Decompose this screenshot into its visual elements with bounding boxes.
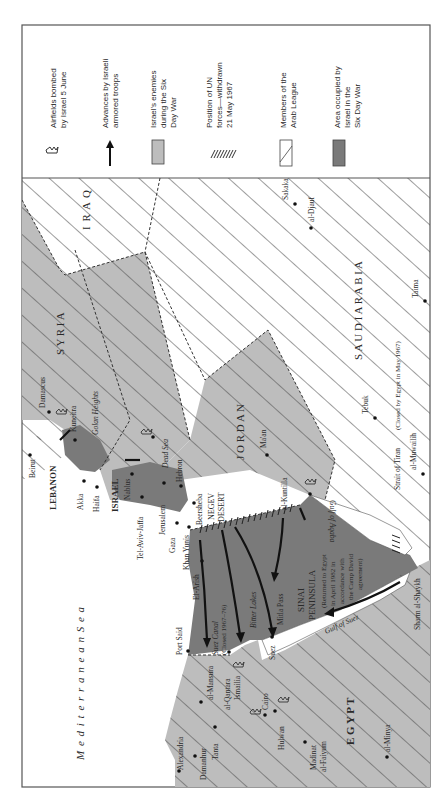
label-sinai-note: (Returned to Egypt	[320, 554, 328, 608]
label-lebanon: LEBANON	[48, 465, 58, 510]
legend-text: Six Day War	[353, 84, 362, 128]
label-sinai-note: agreement)	[356, 558, 364, 590]
legend-text: Israel in the	[343, 86, 352, 128]
legend-text: Position of UN	[205, 77, 214, 128]
city-gaza: Gaza	[168, 537, 177, 553]
city-al-qantara: al-Qantara	[223, 678, 232, 710]
label-peninsula: PENINSULA	[307, 569, 317, 620]
label-egypt: E G Y P T	[344, 697, 356, 745]
city-madinat: Madinat	[309, 744, 318, 770]
label-tiran-note: (Closed by Egypt in May 1967)	[394, 340, 402, 430]
city-damascus: Damascus	[38, 377, 47, 408]
label-golan-heights: Golan Heights	[91, 391, 100, 435]
city-taima: Taima	[411, 279, 420, 298]
city-hulwan: Hulwan	[277, 726, 286, 750]
city-tebuk: Tebuk	[361, 395, 370, 414]
legend-text: Israel's enemies	[149, 70, 158, 128]
city-al-faiyum: al-Faiyum	[319, 741, 328, 772]
legend-text: by Israel 5 June	[59, 71, 68, 128]
legend-text: Members of the	[279, 72, 288, 128]
city-sharm-al-shaykh: Sharm al-Shaykh	[413, 578, 422, 630]
legend-text: Day War	[169, 97, 178, 128]
city-mitla-pass: Mitla Pass	[276, 593, 285, 625]
city-ismailia: Ismailia	[233, 675, 242, 700]
legend-text: 21 May 1967	[225, 81, 234, 128]
legend-text: Airfields bombed	[49, 68, 58, 128]
city-al-mansura: al-Mansura	[206, 665, 215, 700]
city-jerusalem: Jerusalem	[158, 505, 167, 535]
city-beersheba: Beersheba	[195, 493, 204, 525]
legend-text: during the Six	[159, 79, 168, 128]
label-jordan: J O R D A N	[234, 404, 246, 460]
label-mediterranean: M e d i t e r r a n e a n S e a	[74, 606, 86, 761]
six-day-war-map: Airfields bombed by Israel 5 June Advanc…	[0, 0, 448, 799]
label-suez-canal-note: (Closed 1967–76)	[220, 604, 228, 655]
label-gulf-of-aqaba: Gulf of Aqaba	[328, 500, 337, 543]
city-beirut: Beirut	[28, 458, 37, 478]
city-tel-aviv-jaffa: Tel-Aviv-Jaffa	[136, 516, 145, 560]
city-akka: Akka	[76, 493, 85, 510]
label-sinai-note: in April 1982 in	[329, 561, 337, 606]
city-al-kuntilla: al-Kuntilla	[280, 477, 289, 510]
label-sinai-note: accordance with	[338, 558, 346, 604]
legend-text: Arab League	[289, 82, 298, 128]
city-al-minya: al-Minya	[383, 724, 392, 752]
label-negev: NEGEV	[207, 493, 216, 520]
city-al-djauf: al-Djauf	[307, 197, 316, 222]
label-desert: DESERT	[217, 492, 226, 522]
city-khan-yunis: Khan Yunis	[182, 535, 191, 570]
label-saudi-arabia: S A U D I A R A B I A	[352, 261, 364, 360]
label-strait-of-tiran: Strait of Tiran	[393, 448, 402, 490]
label-suez-canal: Suez Canal	[211, 621, 220, 655]
legend-text: Area occupied by	[333, 66, 342, 128]
legend-text: Advances by Israeli	[101, 58, 110, 128]
city-tanta: Tanta	[211, 743, 220, 760]
city-maan: Ma'an	[259, 429, 268, 448]
city-suez: Suez	[268, 645, 277, 660]
city-port-said: Port Said	[175, 627, 184, 655]
city-damanhur: Damanhur	[199, 748, 208, 780]
legend-text: forces—withdrawn	[215, 62, 224, 128]
city-el-arish: El-Arish	[192, 574, 201, 600]
occupied-swatch	[333, 140, 345, 166]
city-hebron: Hebron	[175, 459, 184, 482]
label-bitter-lakes: Bitter Lakes	[249, 591, 258, 628]
label-iraq: I R A Q	[80, 189, 92, 230]
label-syria: S Y R I A	[54, 312, 66, 355]
label-sinai: SINAI	[296, 588, 306, 612]
arab-league-swatch	[280, 140, 292, 166]
label-dead-sea: Dead Sea	[161, 439, 170, 469]
city-al-muwailih: al-Muwailih	[409, 433, 418, 470]
city-sakaka: Sakaka	[281, 178, 290, 200]
city-nablus: Nablus	[123, 479, 132, 500]
city-alexandria: Alexandria	[176, 736, 185, 770]
city-cairo: Cairo	[261, 693, 270, 710]
label-sinai-note: the Camp David	[347, 554, 355, 600]
legend-text: armored troops	[111, 74, 120, 128]
city-kuneitra: Kuneitra	[69, 405, 78, 432]
city-haifa: Haifa	[92, 495, 101, 512]
enemy-swatch	[152, 140, 164, 164]
label-israel: ISRAEL	[110, 478, 120, 512]
